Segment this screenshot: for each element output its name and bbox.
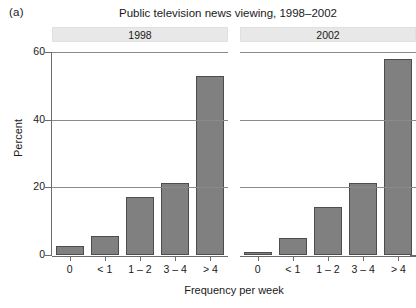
x-axis-tick <box>140 256 141 261</box>
x-axis-title: Frequency per week <box>52 284 416 296</box>
gridline <box>52 52 228 53</box>
bar <box>56 246 84 255</box>
y-axis-tick-label: 20 <box>19 180 45 192</box>
strip-label-1998: 1998 <box>128 29 151 41</box>
x-axis-tick-label: < 1 <box>97 263 112 275</box>
bar <box>161 183 189 255</box>
y-axis-tick <box>45 120 51 121</box>
x-axis-tick <box>398 256 399 261</box>
bar <box>384 59 412 255</box>
figure-container: (a) Public television news viewing, 1998… <box>0 0 416 308</box>
y-axis-tick-label: 0 <box>19 248 45 260</box>
y-axis-tick-label: 60 <box>19 45 45 57</box>
bar <box>91 236 119 255</box>
x-axis-tick-label: > 4 <box>391 263 406 275</box>
bar <box>349 183 377 255</box>
x-axis-tick <box>328 256 329 261</box>
gridline <box>240 187 416 188</box>
y-axis-tick <box>45 255 51 256</box>
x-axis-tick-label: < 1 <box>285 263 300 275</box>
bar-group-1998 <box>52 52 228 255</box>
right-axis-tick <box>410 255 416 256</box>
strip-header-1998: 1998 <box>52 27 228 42</box>
x-axis-tick-label: > 4 <box>203 263 218 275</box>
bar <box>196 76 224 255</box>
bar-group-2002 <box>240 52 416 255</box>
bar <box>126 197 154 255</box>
plot-panel-1998 <box>52 52 228 255</box>
x-axis-tick <box>105 256 106 261</box>
x-axis-tick-label: 3 – 4 <box>352 263 375 275</box>
x-axis-tick <box>293 256 294 261</box>
x-axis-tick <box>175 256 176 261</box>
x-axis-tick-label: 1 – 2 <box>128 263 151 275</box>
x-axis-tick-label: 3 – 4 <box>164 263 187 275</box>
x-axis-tick <box>70 256 71 261</box>
strip-label-2002: 2002 <box>316 29 339 41</box>
plot-panel-2002 <box>240 52 416 255</box>
x-axis-tick <box>210 256 211 261</box>
y-axis-tick <box>45 187 51 188</box>
x-axis-tick-label: 1 – 2 <box>316 263 339 275</box>
x-axis-tick <box>363 256 364 261</box>
x-axis-tick-label: 0 <box>67 263 73 275</box>
chart-title: Public television news viewing, 1998–200… <box>48 7 408 19</box>
x-axis-tick-label: 0 <box>255 263 261 275</box>
x-axis-tick <box>258 256 259 261</box>
panel-letter: (a) <box>9 6 24 18</box>
bar <box>279 238 307 255</box>
bar <box>244 252 272 255</box>
y-axis-title: Percent <box>12 98 24 178</box>
gridline <box>240 52 416 53</box>
strip-header-2002: 2002 <box>240 27 416 42</box>
bar <box>314 207 342 255</box>
gridline <box>240 120 416 121</box>
y-axis-tick <box>45 52 51 53</box>
gridline <box>52 187 228 188</box>
gridline <box>52 120 228 121</box>
